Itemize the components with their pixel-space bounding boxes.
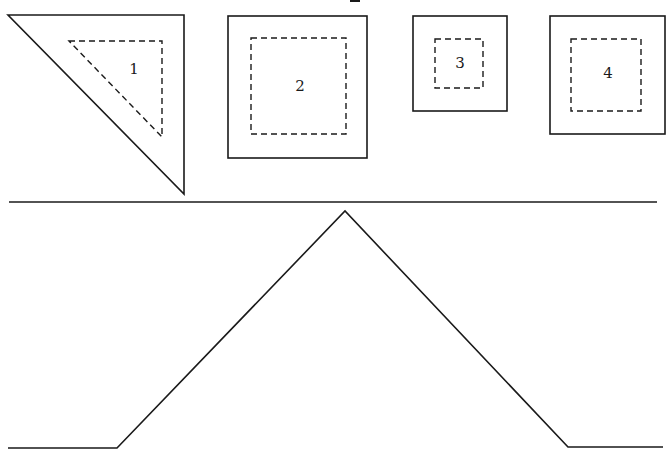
shape-3-label: 3 [455,54,465,72]
shape-1-outer-outline [8,15,184,194]
diagram-canvas: 1 2 3 4 [0,0,668,459]
peak-profile-line [8,211,663,448]
shape-4-square: 4 [550,16,665,134]
shape-2-label: 2 [295,77,305,95]
cropped-title-fragment [350,0,360,2]
shape-4-label: 4 [603,64,613,82]
shape-1-label: 1 [129,60,139,78]
shape-1-triangle: 1 [8,15,184,194]
shape-2-square: 2 [228,16,367,158]
shape-1-inner-dashed-outline [69,41,162,137]
shape-3-square: 3 [413,16,507,111]
